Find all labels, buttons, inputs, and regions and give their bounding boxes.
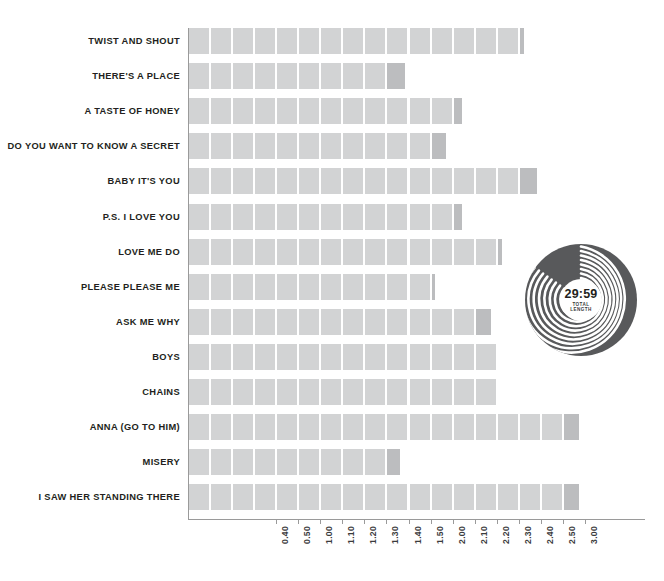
bar-segment [299,239,319,265]
bar-segment [189,168,209,194]
track-label: CHAINS [142,387,180,397]
bar-segment [189,414,209,440]
bar-segment [432,239,452,265]
bar-segment [211,484,231,510]
track-label: PLEASE PLEASE ME [81,282,180,292]
bar-segment-partial [432,133,447,159]
bar-segment [387,309,407,335]
bar-segment [365,484,385,510]
bar-segment [343,309,363,335]
track-label: TWIST AND SHOUT [88,36,180,46]
bar-segment [432,98,452,124]
x-axis-tick-label: 2.10 [479,526,489,544]
bar-segment [189,274,209,300]
bar-segment [189,344,209,370]
bar-segment [299,274,319,300]
bar-segment [410,239,430,265]
bar-segment [189,309,209,335]
bar-segment-partial [387,449,400,475]
bar-segment [211,274,231,300]
bar-segment [299,168,319,194]
x-axis-tick-label: 2.00 [457,526,467,544]
bar-segment [476,379,496,405]
bar-segment [410,133,430,159]
bar-segment [476,28,496,54]
x-axis-tick-mark [585,520,586,524]
bar-segment [321,309,341,335]
bar-segment [211,414,231,440]
bar-segment [476,344,496,370]
bar-segment [189,239,209,265]
bar-segment [321,98,341,124]
x-axis-tick-mark [320,520,321,524]
bar-segment [365,414,385,440]
bar-segment [432,379,452,405]
bar-segment [365,28,385,54]
bar-segment [343,98,363,124]
bar-segment [299,204,319,230]
bar-segment [277,309,297,335]
bar-segment [299,63,319,89]
bar-segment-partial [520,168,537,194]
bar-segment [476,239,496,265]
bar-segment [387,379,407,405]
bar-segment [255,344,275,370]
bar-segment [299,344,319,370]
bar-segment [189,204,209,230]
bar-segment [321,168,341,194]
bar-segment [211,344,231,370]
bar-segment [277,379,297,405]
vinyl-record-icon: 29:59 TOTAL LENGTH [524,243,638,357]
x-axis-tick-label: 0.50 [302,526,312,544]
bar-segment [410,98,430,124]
bar-segment [365,309,385,335]
bar-segment [365,168,385,194]
bar-segment [365,133,385,159]
bar-segment-partial [520,28,524,54]
x-axis-tick-mark [431,520,432,524]
track-label: ANNA (GO TO HIM) [90,422,180,432]
bar-segment [189,28,209,54]
bar-segment [321,239,341,265]
bar-segment [387,344,407,370]
bar-segment [255,309,275,335]
bar-segment [299,309,319,335]
bar-segment [189,63,209,89]
bar-segment [498,484,518,510]
x-axis-tick-label: 2.40 [545,526,555,544]
bar-segment [343,28,363,54]
bar-segment [410,28,430,54]
bar-segment [277,449,297,475]
bar-segment [189,449,209,475]
x-axis-line [188,519,645,520]
bar-segment [321,28,341,54]
bar-segment [321,204,341,230]
track-label: ASK ME WHY [116,317,180,327]
bar-segment [255,98,275,124]
bar-segment [343,379,363,405]
x-axis-tick-label: 3.00 [589,526,599,544]
x-axis-tick-label: 1.40 [413,526,423,544]
bar-segment [189,98,209,124]
bar-segment [255,449,275,475]
x-axis-tick-mark [453,520,454,524]
bar-segment [299,449,319,475]
bar-segment [498,168,518,194]
bar-segment [233,98,253,124]
bar-segment [343,274,363,300]
track-label: LOVE ME DO [118,247,180,257]
bar-segment [233,133,253,159]
x-axis-tick-label: 1.10 [346,526,356,544]
bar-segment-partial [564,484,579,510]
bar-segment [277,28,297,54]
bar-segment [432,28,452,54]
bar-segment [454,484,474,510]
bar-segment [387,414,407,440]
bar-segment [454,239,474,265]
x-axis-tick-label: 1.50 [435,526,445,544]
bar-segment [211,204,231,230]
bar-segment-partial [476,309,491,335]
bar-segment [299,98,319,124]
bar-segment [211,309,231,335]
bar-segment [343,239,363,265]
